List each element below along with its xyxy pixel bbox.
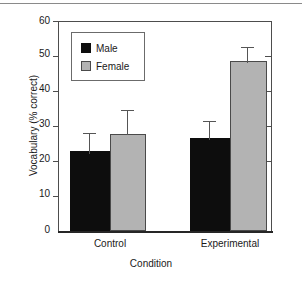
y-axis-title: Vocabulary (% correct)	[28, 46, 39, 206]
errorbar-line-control-female	[127, 110, 128, 135]
errorbar-cap-experimental-female	[241, 47, 254, 48]
black-square-swatch-icon	[81, 43, 91, 53]
errorbar-line-control-male	[89, 133, 90, 154]
errorbar-cap-control-male	[83, 133, 96, 134]
errorbar-cap-experimental-male	[203, 121, 216, 122]
gray-square-swatch-icon	[81, 61, 91, 71]
x-axis-baseline	[58, 231, 273, 233]
y-tick-mark-right-50	[265, 56, 271, 57]
legend-item-male: Male	[81, 40, 144, 56]
bar-control-male	[70, 151, 110, 231]
bar-chart-figure: 60 50 40 30 20 10 0 Vocabulary (% correc…	[0, 0, 302, 282]
bar-control-female	[110, 134, 146, 231]
bar-experimental-female	[230, 61, 267, 231]
errorbar-line-experimental-male	[209, 121, 210, 140]
x-tick-label-control: Control	[60, 238, 160, 249]
legend-label-male: Male	[96, 43, 118, 54]
y-tick-label-0: 0	[10, 225, 50, 235]
plot-area: Male Female	[58, 21, 272, 232]
errorbar-cap-control-female	[121, 110, 134, 111]
legend-item-female: Female	[81, 58, 144, 74]
legend: Male Female	[71, 32, 145, 81]
bar-experimental-male	[190, 138, 230, 231]
x-axis-title: Condition	[0, 258, 302, 269]
y-tick-label-60: 60	[10, 16, 50, 26]
errorbar-line-experimental-female	[247, 47, 248, 63]
x-tick-label-experimental: Experimental	[175, 238, 285, 249]
legend-label-female: Female	[96, 61, 129, 72]
scan-edge-rule	[0, 3, 302, 4]
